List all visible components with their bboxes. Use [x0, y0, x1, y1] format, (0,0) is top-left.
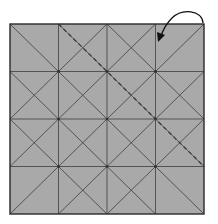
crease-pattern-drawing	[0, 0, 218, 224]
origami-diagram: origami-crease-pattern	[0, 0, 218, 224]
